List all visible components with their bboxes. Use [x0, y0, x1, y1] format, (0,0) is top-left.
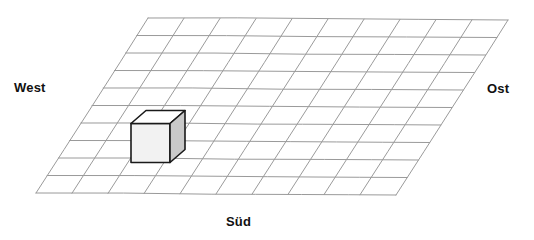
white-cube [131, 111, 185, 163]
direction-label-sued: Süd [226, 215, 251, 228]
cube-front-face [131, 124, 170, 163]
diagram-canvas: West Ost Süd [0, 0, 534, 240]
direction-label-west: West [14, 81, 46, 94]
grid-plane-svg [0, 0, 534, 240]
direction-label-ost: Ost [487, 82, 509, 95]
grid-lines [36, 18, 508, 195]
